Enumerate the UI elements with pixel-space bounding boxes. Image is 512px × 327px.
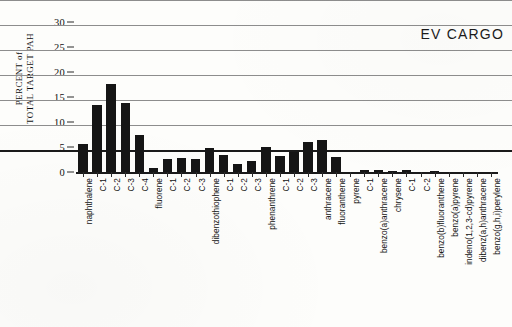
bar[interactable]: [233, 164, 242, 173]
x-tick-mark: [97, 172, 98, 177]
gridline-30: [0, 0, 512, 1]
bar[interactable]: [106, 84, 115, 173]
bar[interactable]: [303, 142, 312, 172]
x-label-slot: fluorene: [146, 178, 160, 318]
bar[interactable]: [121, 103, 130, 173]
bar[interactable]: [177, 158, 186, 173]
x-tick-mark: [111, 172, 112, 177]
x-label-slot: naphthalene: [76, 178, 90, 318]
x-tick-mark: [322, 172, 323, 177]
bar-slot: [132, 22, 146, 172]
bar[interactable]: [317, 140, 326, 172]
x-tick-slot: [245, 172, 259, 177]
bar-slot: [385, 22, 399, 172]
x-tick-slot: [174, 172, 188, 177]
bar[interactable]: [78, 144, 87, 172]
x-tick-mark: [350, 172, 351, 177]
x-tick-slot: [132, 172, 146, 177]
bar-slot: [189, 22, 203, 172]
bar-slot: [301, 22, 315, 172]
x-tick-mark: [449, 172, 450, 177]
x-tick-mark: [125, 172, 126, 177]
x-label-slot: C-4: [132, 178, 146, 318]
x-tick-mark: [364, 172, 365, 177]
x-label-slot: indeno(1,2,3-cd)pyrene: [456, 178, 470, 318]
bar[interactable]: [247, 161, 256, 172]
bar[interactable]: [331, 157, 340, 173]
bar-slot: [217, 22, 231, 172]
chart-page: EV CARGO PERCENT of TOTAL TARGET PAH 051…: [0, 0, 512, 327]
x-tick-mark: [266, 172, 267, 177]
bar-slot: [174, 22, 188, 172]
x-label-slot: C-3: [118, 178, 132, 318]
x-label-slot: chrysene: [385, 178, 399, 318]
x-tick-slot: [442, 172, 456, 177]
x-tick-slot: [371, 172, 385, 177]
x-tick-mark: [491, 172, 492, 177]
bar-slot: [273, 22, 287, 172]
x-tick-slot: [189, 172, 203, 177]
x-tick-mark: [280, 172, 281, 177]
x-tick-slot: [470, 172, 484, 177]
x-label-slot: C-1: [160, 178, 174, 318]
x-tick-mark: [435, 172, 436, 177]
bar-slot: [118, 22, 132, 172]
bar[interactable]: [289, 152, 298, 172]
bar-slot: [399, 22, 413, 172]
x-tick-slot: [231, 172, 245, 177]
bar-slot: [76, 22, 90, 172]
x-tick-slot: [118, 172, 132, 177]
bar-slot: [315, 22, 329, 172]
bar-slot: [203, 22, 217, 172]
bar-slot: [231, 22, 245, 172]
x-tick-slot: [273, 172, 287, 177]
bar[interactable]: [135, 135, 144, 173]
x-tick-mark: [167, 172, 168, 177]
bar-slot: [357, 22, 371, 172]
x-tick-mark: [294, 172, 295, 177]
x-label-slot: benzo(a)anthracene: [371, 178, 385, 318]
x-tick-slot: [456, 172, 470, 177]
bar-slot: [146, 22, 160, 172]
x-axis-ticks: [76, 172, 498, 177]
x-tick-mark: [196, 172, 197, 177]
x-tick-slot: [399, 172, 413, 177]
x-tick-slot: [329, 172, 343, 177]
x-tick-mark: [308, 172, 309, 177]
bar-slot: [371, 22, 385, 172]
x-tick-slot: [287, 172, 301, 177]
x-tick-slot: [301, 172, 315, 177]
x-label-slot: C-3: [301, 178, 315, 318]
x-label-slot: C-3: [245, 178, 259, 318]
bar[interactable]: [92, 105, 101, 172]
x-label-slot: C-2: [104, 178, 118, 318]
x-tick-mark: [463, 172, 464, 177]
x-tick-mark: [252, 172, 253, 177]
bar-slot: [470, 22, 484, 172]
x-tick-mark: [378, 172, 379, 177]
x-tick-mark: [210, 172, 211, 177]
bar-slot: [259, 22, 273, 172]
x-label-slot: C-1: [399, 178, 413, 318]
bar[interactable]: [219, 155, 228, 173]
bar[interactable]: [163, 159, 172, 172]
x-tick-mark: [224, 172, 225, 177]
bar-slot: [287, 22, 301, 172]
bar-slot: [442, 22, 456, 172]
bar[interactable]: [261, 147, 270, 172]
x-tick-slot: [428, 172, 442, 177]
bar-slot: [245, 22, 259, 172]
bar[interactable]: [191, 159, 200, 172]
x-tick-slot: [90, 172, 104, 177]
x-tick-slot: [160, 172, 174, 177]
x-label-slot: phenanthrene: [259, 178, 273, 318]
bar-slot: [428, 22, 442, 172]
x-tick-mark: [336, 172, 337, 177]
bar[interactable]: [205, 148, 214, 172]
x-label-slot: C-2: [414, 178, 428, 318]
bar-slot: [456, 22, 470, 172]
bar[interactable]: [275, 156, 284, 173]
x-label-slot: C-1: [90, 178, 104, 318]
x-tick-mark: [421, 172, 422, 177]
bar-slot: [329, 22, 343, 172]
